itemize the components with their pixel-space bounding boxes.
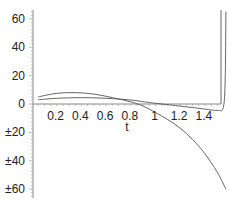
x-tick-label: 0.6 (97, 109, 114, 123)
y-tick-label: 20 (12, 69, 26, 83)
x-tick-label: 1.2 (171, 109, 188, 123)
y-tick-label: ±40 (5, 154, 25, 168)
y-tick-label: 0 (18, 97, 25, 111)
chart-plot: 6040200±20±40±600.20.40.60.811.21.4t (0, 0, 229, 209)
curves (38, 10, 226, 189)
y-tick-label: 60 (12, 12, 26, 26)
axes (29, 10, 221, 198)
x-tick-label: 0.2 (47, 109, 64, 123)
x-tick-label: 0.4 (72, 109, 89, 123)
y-tick-label: 40 (12, 40, 26, 54)
series-line-2 (38, 12, 226, 111)
x-tick-label: 0.8 (121, 109, 138, 123)
y-tick-label: ±20 (5, 125, 25, 139)
x-tick-label: 1 (151, 109, 158, 123)
series-line-1 (38, 93, 226, 190)
y-tick-label: ±60 (5, 182, 25, 196)
x-tick-label: 1.4 (196, 109, 213, 123)
